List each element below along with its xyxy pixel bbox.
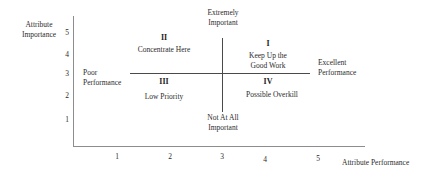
annotation-extremely-important: Extremely Important bbox=[192, 8, 254, 27]
quadrant-i-label: Keep Up the Good Work bbox=[234, 51, 302, 70]
annotation-poor-performance: Poor Performance bbox=[83, 68, 141, 87]
quadrant-i-numeral: I bbox=[248, 39, 288, 48]
y-axis-line bbox=[73, 16, 74, 147]
x-tick-1: 1 bbox=[110, 152, 124, 161]
y-tick-5: 5 bbox=[60, 28, 74, 37]
quadrant-ii-label: Concentrate Here bbox=[128, 45, 200, 55]
y-tick-1: 1 bbox=[60, 115, 74, 124]
vertical-divider-line bbox=[222, 38, 223, 112]
x-tick-2: 2 bbox=[163, 152, 177, 161]
annotation-not-at-all-important: Not At All Important bbox=[192, 113, 254, 132]
importance-performance-matrix: Attribute Importance 5 4 3 2 1 Extremely… bbox=[0, 0, 434, 177]
x-axis-label: Attribute Performance bbox=[342, 158, 434, 168]
quadrant-iii-numeral: III bbox=[144, 77, 184, 86]
quadrant-iv-numeral: IV bbox=[248, 77, 288, 86]
y-tick-2: 2 bbox=[60, 91, 74, 100]
quadrant-iii-label: Low Priority bbox=[130, 92, 198, 102]
annotation-excellent-performance: Excellent Performance bbox=[318, 58, 388, 77]
y-tick-4: 4 bbox=[60, 50, 74, 59]
x-tick-4: 4 bbox=[258, 155, 272, 164]
x-tick-3: 3 bbox=[215, 152, 229, 161]
quadrant-ii-numeral: II bbox=[144, 33, 184, 42]
y-tick-3: 3 bbox=[60, 69, 74, 78]
horizontal-divider-line bbox=[130, 73, 310, 74]
x-axis-line bbox=[73, 146, 365, 147]
quadrant-iv-label: Possible Overkill bbox=[232, 90, 312, 100]
x-tick-5: 5 bbox=[311, 154, 325, 163]
